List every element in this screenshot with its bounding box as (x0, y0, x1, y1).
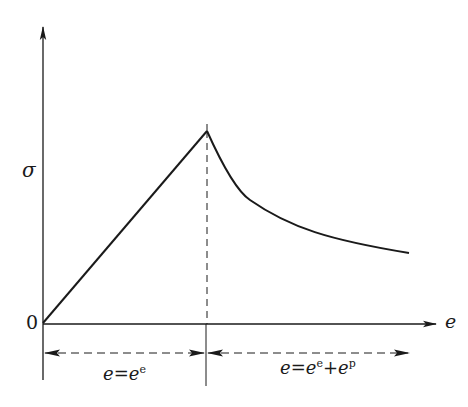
elastic-strain-label: e=ee (103, 363, 146, 384)
label-e: e (306, 357, 317, 378)
label-e: e (129, 363, 140, 384)
label-superscript: e (316, 357, 323, 370)
label-superscript: e (139, 363, 146, 376)
label-e: e (103, 363, 114, 384)
label-superscript: p (349, 357, 356, 370)
softening-curve (207, 131, 409, 253)
label-equals: = (291, 357, 306, 378)
label-equals: = (114, 363, 129, 384)
x-axis-label: e (445, 310, 456, 332)
left-dim-arrow-start (44, 350, 60, 357)
stress-strain-diagram: σ e 0 e=ee e=ee+ep (0, 0, 468, 407)
label-e: e (338, 357, 349, 378)
diagram-canvas (0, 0, 468, 407)
y-axis-label: σ (22, 158, 36, 182)
elastic-line (43, 131, 207, 323)
label-plus: + (323, 357, 338, 378)
origin-label: 0 (26, 311, 38, 333)
total-strain-label: e=ee+ep (280, 357, 356, 378)
label-e: e (280, 357, 291, 378)
right-dim-arrow-start (207, 350, 223, 357)
